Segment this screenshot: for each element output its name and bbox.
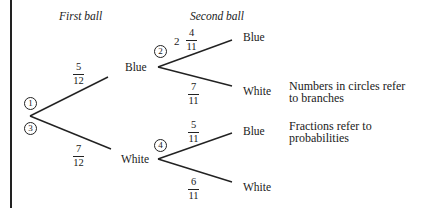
- outcome-first-white: White: [121, 154, 149, 166]
- note-circles: Numbers in circles refer to branches: [289, 80, 405, 104]
- note-fractions: Fractions refer to probabilities: [289, 120, 372, 144]
- prob-blue-blue: 4 11: [186, 28, 197, 52]
- outcome-white-white: White: [243, 182, 271, 194]
- outcome-white-blue: Blue: [243, 126, 265, 138]
- prob-first-white: 7 12: [73, 144, 84, 168]
- node-circle-1: 1: [24, 97, 37, 110]
- tree-branches: [0, 0, 425, 208]
- branch-first-white: [30, 116, 111, 149]
- prob-first-blue: 5 12: [73, 62, 84, 86]
- outcome-blue-white: White: [243, 86, 271, 98]
- node-circle-3: 3: [24, 122, 37, 135]
- prob-white-blue: 5 11: [188, 120, 199, 144]
- outcome-blue-blue: Blue: [243, 32, 265, 44]
- node-circle-4: 4: [154, 139, 167, 152]
- prob-blue-white: 7 11: [188, 82, 199, 106]
- node-circle-2: 2: [154, 45, 167, 58]
- prob-blue-blue-prefix: 2: [174, 36, 180, 47]
- outcome-first-blue: Blue: [125, 62, 147, 74]
- header-second-ball: Second ball: [190, 11, 244, 23]
- prob-white-white: 6 11: [188, 177, 199, 201]
- branch-first-blue: [30, 77, 108, 116]
- header-first-ball: First ball: [59, 11, 102, 23]
